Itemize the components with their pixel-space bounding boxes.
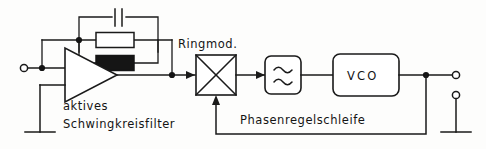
input-terminal-icon[interactable] bbox=[20, 64, 27, 71]
resistor-open-branch bbox=[42, 33, 172, 48]
input-section bbox=[20, 64, 65, 71]
output-section bbox=[399, 71, 471, 132]
ground-amplifier bbox=[25, 85, 55, 132]
vco-label: VCO bbox=[347, 69, 379, 83]
junction-dot-input bbox=[39, 65, 45, 71]
signal-path-to-lowpass bbox=[236, 71, 265, 79]
schematic-page: Ringmod. VCO bbox=[0, 0, 486, 149]
ringmod-label: Ringmod. bbox=[178, 37, 237, 51]
junction-dot-feedback-left bbox=[76, 37, 82, 43]
resistor-open-body bbox=[96, 33, 134, 48]
ringmodulator-symbol bbox=[196, 55, 236, 95]
loop-label: Phasenregelschleife bbox=[240, 113, 365, 127]
resistor-filled-wire-right bbox=[134, 40, 158, 63]
filter-caption-line2: Schwingkreisfilter bbox=[63, 117, 175, 131]
lowpass-filter-symbol bbox=[265, 56, 301, 94]
output-terminal-ground-icon[interactable] bbox=[452, 91, 459, 98]
arrowhead-lowpass-input bbox=[256, 71, 265, 79]
lowpass-box bbox=[265, 56, 301, 94]
arrowhead-ringmod-input bbox=[186, 71, 195, 79]
signal-path-to-ringmod bbox=[169, 71, 195, 79]
arrowhead-ringmod-lo-input bbox=[212, 95, 220, 105]
output-terminal-hot-icon[interactable] bbox=[452, 71, 459, 78]
circuit-diagram: Ringmod. VCO bbox=[0, 0, 486, 149]
junction-dot-amp-output bbox=[169, 72, 175, 78]
filter-caption-line1: aktives bbox=[63, 99, 108, 113]
